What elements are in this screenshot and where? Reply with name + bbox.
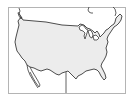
us-map [0, 0, 132, 104]
map-container [0, 0, 132, 104]
